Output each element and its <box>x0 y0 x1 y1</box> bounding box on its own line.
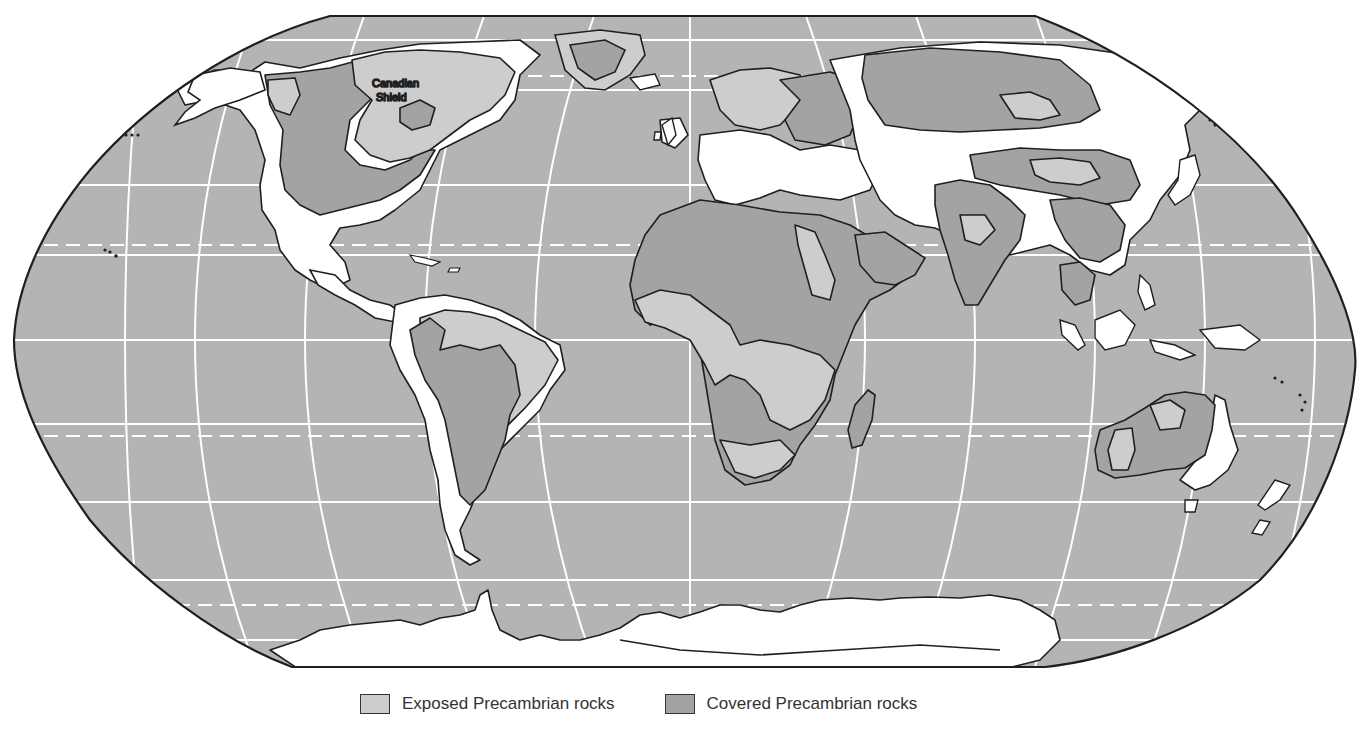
world-map: Canadian Shield <box>0 0 1362 680</box>
tasmania <box>1185 500 1198 512</box>
legend: Exposed Precambrian rocks Covered Precam… <box>360 694 967 714</box>
canadian-shield-label-2: Shield <box>376 91 407 103</box>
canadian-shield-label: Canadian <box>372 77 419 89</box>
legend-label-exposed: Exposed Precambrian rocks <box>402 694 615 714</box>
legend-label-covered: Covered Precambrian rocks <box>707 694 918 714</box>
legend-item-exposed: Exposed Precambrian rocks <box>360 694 615 714</box>
swatch-exposed <box>360 694 390 714</box>
legend-item-covered: Covered Precambrian rocks <box>665 694 918 714</box>
swatch-covered <box>665 694 695 714</box>
